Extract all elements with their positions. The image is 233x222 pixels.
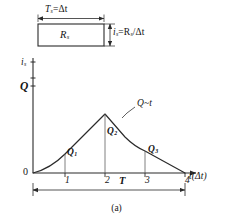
hydrograph-curve-group: [33, 114, 185, 173]
y-axis-label-discharge: Q: [20, 81, 28, 93]
figure-caption: (a): [0, 203, 233, 213]
curve-label-leader: [122, 107, 135, 118]
x-tick-label-4: 4: [185, 176, 190, 186]
x-tick-label-1: 1: [65, 176, 70, 186]
sub-area-label-q3: Q3: [148, 145, 158, 155]
axes-group: [31, 58, 197, 173]
pulse-block-group: [38, 15, 115, 47]
curve-series-label: Q~t: [137, 99, 152, 109]
sub-area-label-q1: Q1: [67, 148, 77, 158]
x-tick-label-3: 3: [145, 176, 150, 186]
x-tick-label-2: 2: [105, 176, 110, 186]
base-time-label: T: [119, 176, 126, 187]
origin-label: 0: [23, 167, 28, 177]
pulse-duration-label: Ts=Δt: [45, 5, 67, 15]
sub-area-label-q2: Q2: [107, 127, 117, 137]
x-axis-label: t(Δt): [189, 172, 207, 182]
rainfall-intensity-label: is=Rs/Δt: [113, 28, 145, 38]
y-axis-label-intensity: is: [21, 58, 26, 68]
curve-label-leader-line: [122, 107, 135, 118]
hydrograph-curve-path: [33, 114, 185, 173]
hydrograph-figure: Ts=Δt Rs is=Rs/Δt is Q 0 Q~t t(Δt) T Q1 …: [0, 0, 233, 222]
rainfall-depth-rectangle: [38, 24, 104, 46]
rainfall-depth-label: Rs: [60, 30, 69, 41]
